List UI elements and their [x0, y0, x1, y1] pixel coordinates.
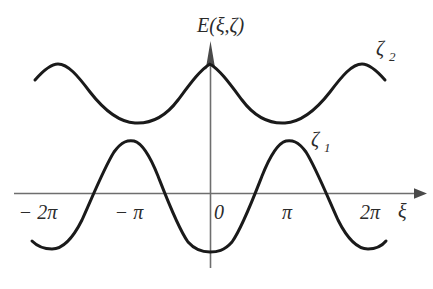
curve-label-upper: ζ 2 [376, 37, 396, 64]
x-tick-label-2pi: 2π [360, 201, 381, 223]
y-axis [206, 41, 216, 268]
plot-canvas: E(ξ,ζ) ξ − 2π − π 0 π 2π ζ 2 ζ 1 [0, 0, 433, 289]
curve-label-lower-subscript: 1 [324, 140, 331, 155]
curve-lower-band [32, 141, 386, 252]
curve-label-lower-symbol: ζ [311, 128, 321, 151]
curve-label-upper-symbol: ζ [376, 37, 386, 60]
x-axis-arrow-icon [414, 188, 427, 199]
x-tick-label-zero: 0 [214, 201, 224, 223]
x-tick-label-minus-pi: − π [115, 201, 144, 223]
curve-label-lower: ζ 1 [311, 128, 331, 155]
x-tick-label-minus-2pi: − 2π [19, 201, 58, 223]
energy-band-figure: E(ξ,ζ) ξ − 2π − π 0 π 2π ζ 2 ζ 1 [0, 0, 433, 289]
x-axis-label: ξ [398, 200, 407, 222]
x-axis [14, 188, 427, 199]
x-tick-label-pi: π [282, 201, 293, 223]
curve-label-upper-subscript: 2 [389, 49, 396, 64]
y-axis-label: E(ξ,ζ) [196, 14, 245, 37]
